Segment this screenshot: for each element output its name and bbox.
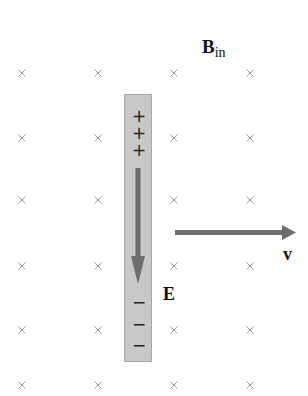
diagram-canvas: Bin + + + − − − E v — [0, 0, 308, 396]
arrows-layer — [0, 0, 308, 396]
electric-field-arrow-icon — [131, 168, 145, 284]
velocity-arrow-icon — [175, 225, 296, 240]
velocity-label: v — [283, 244, 292, 265]
electric-field-label: E — [163, 284, 175, 305]
